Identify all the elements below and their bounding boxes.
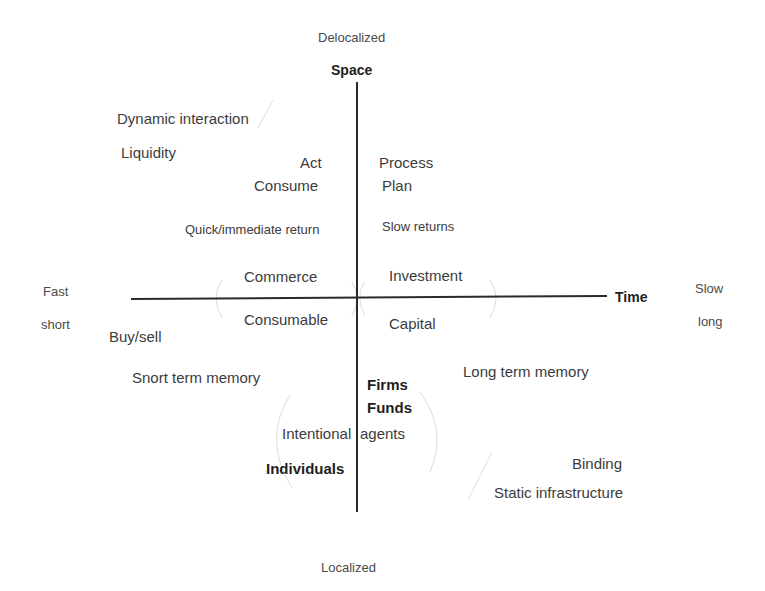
- label-commerce: Commerce: [244, 269, 317, 284]
- label-dynamic-interaction: Dynamic interaction: [117, 111, 249, 126]
- label-slow-returns: Slow returns: [382, 220, 454, 233]
- label-intentional: Intentional: [282, 426, 351, 441]
- arc-top-left: [258, 100, 273, 128]
- label-plan: Plan: [382, 178, 412, 193]
- arc-agents-right: [420, 392, 437, 472]
- label-capital: Capital: [389, 316, 436, 331]
- label-short-term-memory: Snort term memory: [132, 370, 260, 385]
- label-funds: Funds: [367, 400, 412, 415]
- label-static-infrastructure: Static infrastructure: [494, 485, 623, 500]
- label-buy-sell: Buy/sell: [109, 329, 162, 344]
- pole-fast: Fast: [43, 285, 68, 298]
- label-liquidity: Liquidity: [121, 145, 176, 160]
- label-act: Act: [300, 155, 322, 170]
- axis-title-time: Time: [615, 290, 647, 304]
- pole-delocalized: Delocalized: [318, 31, 385, 44]
- label-firms: Firms: [367, 377, 408, 392]
- label-binding: Binding: [572, 456, 622, 471]
- arc-bottom-right: [468, 452, 492, 500]
- label-quick-return: Quick/immediate return: [185, 223, 319, 236]
- arc-center-right: [360, 282, 365, 316]
- diagram-canvas: [0, 0, 765, 591]
- label-individuals: Individuals: [266, 461, 344, 476]
- pole-short: short: [41, 318, 70, 331]
- axis-title-space: Space: [331, 63, 372, 77]
- label-long-term-memory: Long term memory: [463, 364, 589, 379]
- pole-long: long: [698, 315, 723, 328]
- label-consumable: Consumable: [244, 312, 328, 327]
- pole-localized: Localized: [321, 561, 376, 574]
- arc-right-investment: [490, 280, 496, 318]
- label-consume: Consume: [254, 178, 318, 193]
- label-process: Process: [379, 155, 433, 170]
- label-investment: Investment: [389, 268, 462, 283]
- label-agents: agents: [360, 426, 405, 441]
- pole-slow: Slow: [695, 282, 723, 295]
- time-axis-line: [131, 296, 607, 299]
